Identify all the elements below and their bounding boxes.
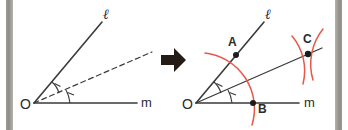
- left-diagram: [34, 22, 152, 103]
- point-A-dot: [233, 52, 239, 58]
- right-ray-l-label: ℓ: [265, 8, 271, 22]
- left-bisector-dashed: [34, 52, 152, 103]
- point-A-label: A: [228, 36, 237, 48]
- right-arrow-icon: [161, 48, 186, 72]
- left-ray-l-label: ℓ: [103, 8, 109, 22]
- right-vertex-label: O: [182, 97, 193, 111]
- left-ray-m-label: m: [141, 96, 152, 109]
- point-B-label: B: [258, 103, 267, 115]
- arc-from-B: [311, 29, 323, 80]
- point-C-dot: [305, 51, 311, 57]
- point-B-dot: [250, 100, 256, 106]
- left-ray-l: [34, 22, 102, 103]
- right-ray-m-label: m: [304, 96, 315, 109]
- point-C-label: C: [303, 33, 312, 45]
- left-vertex-label: O: [20, 97, 31, 111]
- figure-canvas: [0, 0, 348, 130]
- geometry-figure: O ℓ m O ℓ m A B C: [0, 0, 348, 130]
- right-angle-arc-lower: [228, 90, 232, 103]
- left-angle-arc-lower: [66, 90, 70, 103]
